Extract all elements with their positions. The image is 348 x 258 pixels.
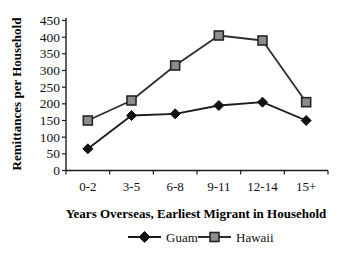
x-category-label: 12-14 [247,179,278,194]
marker-diamond-guam [301,116,311,126]
y-tick-label: 100 [40,130,61,145]
marker-square-hawaii [83,116,92,125]
y-tick-label: 350 [40,46,61,61]
legend-item-guam: Guam [128,230,198,245]
marker-diamond-guam [214,101,224,111]
marker-square-hawaii [258,36,267,45]
legend-label-hawaii: Hawaii [236,230,274,245]
legend-guam-diamond-icon [139,232,150,243]
y-tick-label: 450 [40,13,61,28]
marker-square-hawaii [171,61,180,70]
y-tick-label: 200 [40,96,61,111]
legend-label-guam: Guam [166,230,198,245]
marker-square-hawaii [302,98,311,107]
marker-square-hawaii [127,96,136,105]
legend: Guam Hawaii [128,230,274,245]
x-category-label: 9-11 [207,179,230,194]
x-category-label: 3-5 [123,179,140,194]
y-tick-label: 0 [53,163,60,178]
x-axis-title: Years Overseas, Earliest Migrant in Hous… [66,206,327,221]
y-axis-title: Remittances per Household [9,17,24,171]
y-tick-label: 150 [40,113,61,128]
legend-hawaii-square-icon [210,233,219,242]
y-tick-label: 300 [40,63,61,78]
x-category-label: 6-8 [166,179,183,194]
marker-diamond-guam [170,109,180,119]
marker-diamond-guam [258,97,268,107]
plot-area: 0501001502002503003504004500-23-56-89-11… [40,13,328,194]
y-tick-label: 400 [40,30,61,45]
y-tick-label: 250 [40,80,61,95]
x-category-label: 15+ [296,179,316,194]
series-line-hawaii [88,36,306,121]
marker-square-hawaii [214,31,223,40]
series-line-guam [88,102,306,149]
y-tick-label: 50 [47,146,61,161]
x-category-label: 0-2 [79,179,96,194]
legend-item-hawaii: Hawaii [198,230,274,245]
line-chart: Remittances per Household Years Overseas… [0,0,348,258]
